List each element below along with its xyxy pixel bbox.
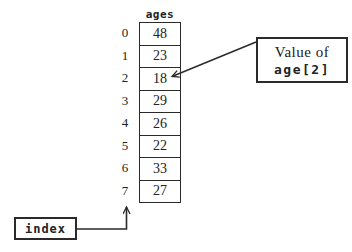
index-label: 5 [112, 135, 138, 158]
value-callout-arrow [172, 42, 256, 77]
index-label-box: index [14, 217, 77, 240]
index-pointer-arrow [77, 207, 127, 229]
index-label: 3 [112, 90, 138, 113]
index-label: 6 [112, 157, 138, 180]
array-title: ages [139, 4, 181, 23]
index-label: 4 [112, 112, 138, 135]
array-cell: 48 [139, 22, 181, 46]
array-cell: 22 [139, 135, 181, 159]
index-label: 7 [112, 180, 138, 203]
index-label: 2 [112, 67, 138, 90]
array-cell: 23 [139, 45, 181, 69]
index-label: 0 [112, 22, 138, 45]
value-callout-box: Value of age[2] [256, 37, 348, 83]
index-column: 0 1 2 3 4 5 6 7 [112, 22, 138, 202]
index-label: 1 [112, 45, 138, 68]
array-cell: 33 [139, 157, 181, 181]
array-diagram: ages 0 1 2 3 4 5 6 7 48 23 18 29 26 22 3… [0, 0, 352, 252]
array-cell: 29 [139, 90, 181, 114]
array-cell: 26 [139, 112, 181, 136]
array-cells-column: 48 23 18 29 26 22 33 27 [139, 22, 181, 203]
callout-text: Value of [275, 44, 329, 61]
index-box-text: index [25, 222, 66, 236]
array-cell: 27 [139, 180, 181, 204]
array-cell: 18 [139, 67, 181, 91]
array-title-text: ages [146, 8, 175, 23]
callout-code-text: age[2] [274, 62, 330, 77]
